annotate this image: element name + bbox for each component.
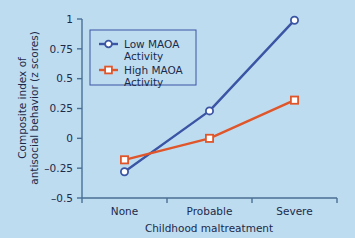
data-point-marker (206, 135, 213, 142)
legend-label-line1: Low MAOA (124, 38, 180, 50)
x-category-label: Severe (276, 205, 312, 217)
x-category-label: None (111, 205, 138, 217)
legend: Low MAOAActivityHigh MAOAActivity (90, 30, 196, 88)
chart-container: 10.750.50.250–0.25–0.5 NoneProbableSever… (0, 0, 355, 238)
legend-label-line2: Activity (124, 50, 163, 62)
y-tick-label: –0.5 (51, 192, 73, 204)
y-tick-label: 0.75 (50, 43, 73, 55)
data-point-marker (121, 156, 128, 163)
y-tick-label: 1 (66, 13, 73, 25)
x-category-label: Probable (187, 205, 233, 217)
legend-label-line1: High MAOA (124, 64, 184, 76)
antisocial-behavior-line-chart: 10.750.50.250–0.25–0.5 NoneProbableSever… (0, 0, 355, 238)
legend-marker-icon (105, 41, 112, 48)
data-point-marker (121, 168, 128, 175)
data-point-marker (206, 107, 213, 114)
y-axis-title-line1: Composite index of (16, 57, 28, 159)
data-point-marker (291, 97, 298, 104)
y-tick-label: 0.5 (56, 72, 73, 84)
y-axis-title-line2: antisocial behavior (z scores) (28, 31, 40, 185)
x-axis-title: Childhood maltreatment (145, 222, 273, 234)
y-tick-label: –0.25 (44, 162, 73, 174)
y-tick-label: 0 (66, 132, 73, 144)
legend-label-line2: Activity (124, 76, 163, 88)
y-tick-label: 0.25 (50, 102, 73, 114)
legend-marker-icon (105, 67, 112, 74)
data-point-marker (291, 17, 298, 24)
